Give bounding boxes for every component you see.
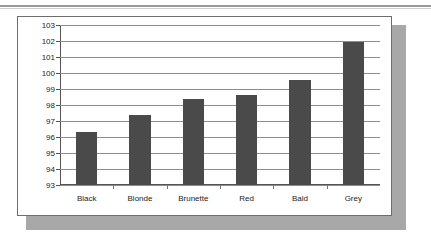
- chart-panel: 10310210110099989796959493 BlackBlondeBr…: [17, 16, 392, 216]
- x-axis-category-label: Black: [60, 194, 113, 203]
- y-axis-tick-label: 102: [42, 37, 55, 46]
- x-tick-mark: [327, 185, 328, 189]
- x-axis-category-label: Grey: [327, 194, 380, 203]
- bar[interactable]: [129, 115, 150, 185]
- bar[interactable]: [76, 132, 97, 185]
- y-axis-tick-label: 99: [46, 85, 55, 94]
- x-axis-category-label: Blonde: [113, 194, 166, 203]
- y-axis-tick-label: 94: [46, 165, 55, 174]
- y-axis-tick-label: 103: [42, 21, 55, 30]
- x-axis-category-label: Bald: [273, 194, 326, 203]
- bar-category-slot: Brunette: [167, 25, 220, 185]
- page-top-rule: [0, 5, 431, 7]
- bar-series: BlackBlondeBrunetteRedBaldGrey: [60, 25, 380, 185]
- bar-category-slot: Bald: [273, 25, 326, 185]
- y-tick-mark: [56, 185, 60, 186]
- page-top-rule-secondary: [0, 8, 431, 9]
- x-tick-mark: [220, 185, 221, 189]
- bar[interactable]: [289, 80, 310, 185]
- x-tick-mark: [113, 185, 114, 189]
- bar-category-slot: Grey: [327, 25, 380, 185]
- bar[interactable]: [343, 42, 364, 185]
- y-axis-tick-label: 95: [46, 149, 55, 158]
- x-axis-category-label: Red: [220, 194, 273, 203]
- bar-category-slot: Red: [220, 25, 273, 185]
- plot-wrapper: 10310210110099989796959493 BlackBlondeBr…: [18, 17, 391, 215]
- y-axis-tick-label: 101: [42, 53, 55, 62]
- bar-category-slot: Black: [60, 25, 113, 185]
- x-axis-category-label: Brunette: [167, 194, 220, 203]
- y-axis-tick-label: 96: [46, 133, 55, 142]
- x-tick-mark: [167, 185, 168, 189]
- bar[interactable]: [236, 95, 257, 185]
- plot-area: 10310210110099989796959493 BlackBlondeBr…: [60, 25, 380, 185]
- bar-category-slot: Blonde: [113, 25, 166, 185]
- y-axis-tick-label: 93: [46, 181, 55, 190]
- y-axis-tick-label: 97: [46, 117, 55, 126]
- x-tick-mark: [273, 185, 274, 189]
- y-axis-tick-label: 98: [46, 101, 55, 110]
- y-axis-tick-label: 100: [42, 69, 55, 78]
- bar[interactable]: [183, 99, 204, 185]
